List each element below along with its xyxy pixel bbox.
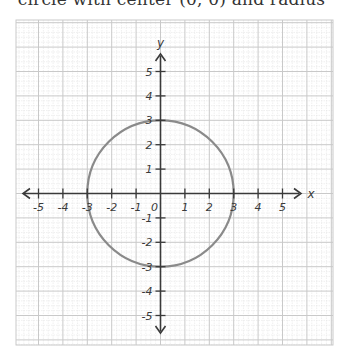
x-tick-label: -4 xyxy=(57,201,68,214)
x-tick-label: 4 xyxy=(255,201,262,214)
x-tick-label: 5 xyxy=(279,201,286,214)
y-tick-label: -3 xyxy=(142,261,153,274)
x-tick-label: -1 xyxy=(131,201,142,214)
tick-labels: -5-4-3-2-1012345-5-4-3-2-112345xy xyxy=(33,36,315,323)
y-tick-label: 5 xyxy=(146,66,153,79)
x-axis-label: x xyxy=(306,187,315,201)
y-tick-label: -5 xyxy=(142,310,153,323)
y-tick-label: 2 xyxy=(146,139,153,152)
coordinate-plane: -5-4-3-2-1012345-5-4-3-2-112345xy xyxy=(0,0,343,358)
y-tick-label: -1 xyxy=(142,212,153,225)
y-tick-label: 1 xyxy=(146,163,153,176)
grid-minor-lines xyxy=(16,20,333,345)
x-tick-label: 1 xyxy=(181,201,188,214)
y-tick-label: 3 xyxy=(146,114,153,127)
y-tick-label: 4 xyxy=(146,90,153,103)
x-tick-label: 3 xyxy=(230,201,237,214)
x-tick-label: -3 xyxy=(82,201,93,214)
y-tick-label: -4 xyxy=(142,285,153,298)
x-tick-label: 2 xyxy=(206,201,213,214)
x-tick-label: -5 xyxy=(33,201,44,214)
x-tick-label: -2 xyxy=(106,201,117,214)
y-axis-label: y xyxy=(156,36,165,50)
y-tick-label: -2 xyxy=(142,236,153,249)
